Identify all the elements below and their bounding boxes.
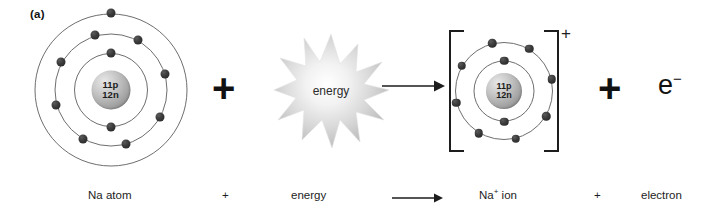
energy-starburst: energy: [272, 32, 390, 150]
atom-nucleus: 11p 12n: [91, 70, 130, 109]
caption-na-ion-suffix: ion: [502, 189, 517, 201]
atom-shell-2-electron: [79, 134, 88, 143]
atom-shell-2-electron: [52, 101, 61, 110]
ion-shell-2-electron: [525, 45, 534, 54]
caption-electron: electron: [641, 189, 682, 201]
ion-shell-1-electron: [500, 56, 509, 65]
ion-charge-superscript: +: [561, 24, 571, 44]
atom-shell-1-electron: [106, 122, 115, 131]
atom-shell-2-electron: [155, 112, 164, 121]
ion-shell-2-electron: [488, 39, 497, 48]
ion-nucleus: 11p 12n: [486, 73, 522, 109]
electron-symbol-charge: −: [673, 70, 682, 87]
nucleus-neutrons-label: 12n: [102, 90, 118, 100]
sodium-ion-group: 11p 12n +: [449, 30, 559, 152]
atom-shell-1-electron: [106, 48, 115, 57]
sodium-atom-diagram: 11p 12n: [33, 12, 188, 167]
atom-shell-2-electron: [160, 69, 169, 78]
ion-shell-2-electron: [452, 99, 461, 108]
ion-shell-2-electron: [458, 62, 467, 71]
energy-label: energy: [313, 84, 350, 98]
ion-shell-1-electron: [500, 117, 509, 126]
electron-symbol: e−: [658, 70, 682, 101]
atom-shell-2-electron: [122, 139, 131, 148]
caption-plus-1: +: [222, 189, 229, 201]
atom-shell-3-electron: [106, 9, 115, 18]
electron-symbol-base: e: [658, 70, 673, 100]
caption-arrow-icon: [392, 192, 444, 204]
ion-shell-2-electron: [475, 129, 484, 138]
bracket-left-spine: [449, 30, 451, 152]
reaction-arrow: [382, 78, 446, 98]
caption-na-atom: Na atom: [88, 189, 131, 201]
plus-sign-products: +: [598, 68, 621, 108]
plus-sign-reactants: +: [212, 68, 235, 108]
sodium-ion-diagram: 11p 12n: [454, 36, 554, 146]
reaction-arrow-icon: [382, 78, 446, 94]
ion-shell-2-electron: [547, 75, 556, 84]
caption-na-ion: Na+ ion: [479, 189, 517, 201]
figure-canvas: (a) 11p 12n + energy: [0, 0, 717, 214]
ion-nucleus-neutrons-label: 12n: [496, 91, 512, 100]
caption-na-ion-charge: +: [494, 187, 499, 196]
ion-shell-2-electron: [542, 112, 551, 121]
caption-na-ion-base: Na: [479, 189, 494, 201]
caption-energy: energy: [291, 189, 326, 201]
ion-shell-2-electron: [512, 134, 521, 143]
caption-arrow: [392, 190, 444, 208]
atom-shell-2-electron: [133, 36, 142, 45]
caption-plus-2: +: [594, 189, 601, 201]
atom-shell-2-electron: [90, 31, 99, 40]
atom-shell-2-electron: [57, 58, 66, 67]
bracket-right-spine: [557, 30, 559, 152]
